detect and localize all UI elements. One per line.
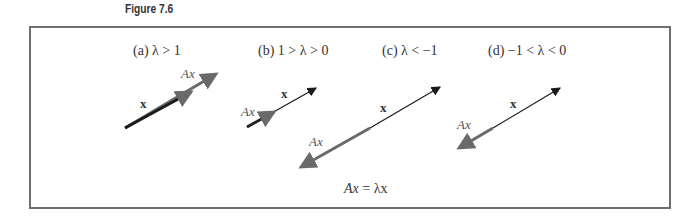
Ax-label-c: Ax [309, 134, 323, 150]
equation-lhs: Ax [344, 181, 359, 196]
Ax-label-b: Ax [241, 104, 255, 120]
x-label-b: x [281, 86, 288, 102]
x-vector-d [493, 88, 560, 128]
x-vector-a [125, 92, 191, 128]
x-label-d: x [510, 96, 517, 112]
equation-equals: = [362, 181, 370, 196]
panel-a-vectors [125, 74, 216, 128]
Ax-label-a: Ax [181, 66, 195, 82]
x-label-c: x [380, 100, 387, 116]
equation: Ax = λx [344, 181, 387, 197]
panel-c-vectors [301, 87, 440, 167]
x-label-a: x [140, 96, 147, 112]
equation-rhs: λx [374, 181, 388, 196]
Ax-label-d: Ax [457, 117, 471, 133]
